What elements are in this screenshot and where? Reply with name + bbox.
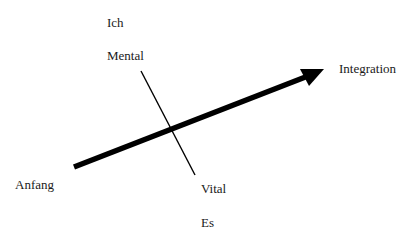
development-arrow-shaft [74,76,308,167]
label-anfang: Anfang [15,178,54,191]
label-vital: Vital [201,182,226,195]
label-mental: Mental [107,49,144,62]
label-ich: Ich [107,16,124,29]
diagram-lines [0,0,416,245]
label-integration: Integration [339,62,396,75]
label-es: Es [201,216,214,229]
diagram-canvas: Ich Mental Integration Anfang Vital Es [0,0,416,245]
